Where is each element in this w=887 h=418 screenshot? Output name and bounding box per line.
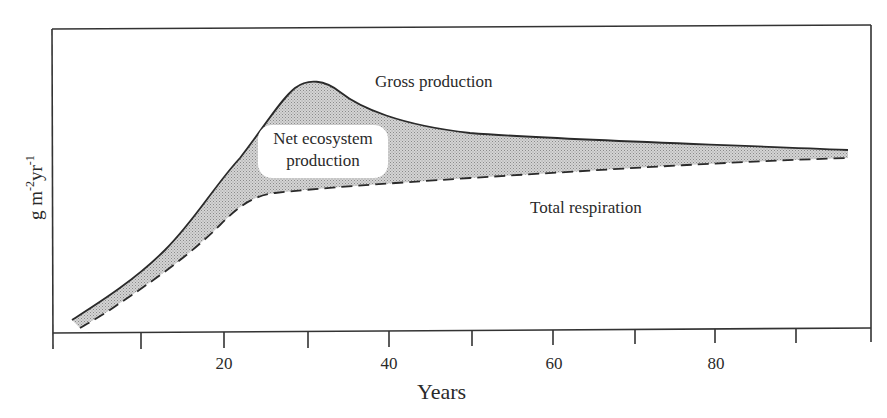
net-label-line1: Net ecosystem	[258, 128, 388, 150]
y-axis-label: g m-2yr-1	[23, 133, 46, 243]
total-respiration-label: Total respiration	[530, 198, 642, 218]
y-label-sup2: -1	[23, 155, 37, 165]
y-label-sup1: -2	[23, 181, 37, 191]
net-ecosystem-production-area	[72, 82, 848, 328]
x-tick-label-60: 60	[546, 354, 563, 374]
net-ecosystem-production-label: Net ecosystem production	[258, 125, 388, 178]
y-label-yr: yr	[25, 165, 46, 181]
y-label-g-m: g m	[25, 191, 46, 220]
x-tick-label-20: 20	[216, 354, 233, 374]
x-axis-label: Years	[417, 379, 466, 405]
x-tick-label-80: 80	[708, 354, 725, 374]
x-tick-label-40: 40	[381, 354, 398, 374]
net-label-line2: production	[258, 150, 388, 172]
gross-production-label: Gross production	[375, 72, 493, 92]
gross-production-line	[72, 82, 848, 320]
chart-canvas	[0, 0, 887, 418]
